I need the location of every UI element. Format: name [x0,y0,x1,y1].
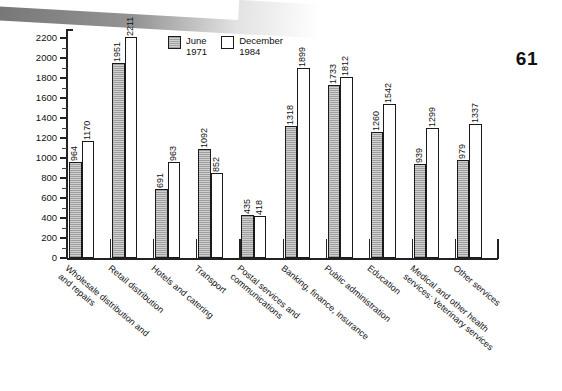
bar-june-1971: 435 [241,215,254,259]
bar-value-label: 963 [169,146,178,161]
bar-december-1984: 1170 [82,141,95,258]
x-axis-baseline [67,258,498,260]
bar-june-1971: 979 [457,160,470,258]
bar-december-1984: 1299 [426,128,439,258]
y-axis-tick [60,77,67,78]
y-axis-tick-label: 1400 [36,113,57,123]
bar-june-1971: 1318 [285,126,298,258]
bar-value-label: 418 [255,200,264,215]
y-axis-tick [60,37,67,38]
bar-december-1984: 963 [168,162,181,258]
y-axis-tick [60,137,67,138]
y-axis-tick-label: 1000 [36,153,57,163]
y-axis-tick-label: 800 [41,173,57,183]
x-axis-category-label: Banking, finance, insurance [279,263,370,342]
bar-june-1971: 1951 [112,63,125,258]
bar-value-label: 691 [156,173,165,188]
bar-june-1971: 1733 [328,85,341,258]
bar-value-label: 1170 [83,121,92,140]
y-axis-tick-label: 0 [52,253,57,263]
bar-value-label: 1542 [384,83,393,103]
bar-december-1984: 852 [211,173,224,258]
x-axis-group-separator [283,239,284,258]
x-axis-category-label: Transport [193,263,229,296]
x-axis-group-separator [412,239,413,258]
legend: June 1971December 1984 [168,35,283,57]
x-axis-group-separator [239,239,240,258]
x-axis-group-separator [326,239,327,258]
bar-value-label: 2211 [126,17,135,36]
bar-chart: 0200400600800100012001400160018002000220… [0,0,562,391]
y-axis-tick-label: 200 [41,233,57,243]
legend-label-june-1971: June 1971 [186,35,207,57]
y-axis-tick [60,237,67,238]
bar-june-1971: 964 [69,162,82,258]
y-axis-tick-label: 1800 [36,73,57,83]
legend-label-december-1984: December 1984 [239,35,283,57]
x-axis-group-separator [110,239,111,258]
legend-item-june-1971: June 1971 [168,35,207,57]
y-axis-tick [60,177,67,178]
bar-value-label: 939 [415,148,424,163]
x-axis-category-label: Education [365,263,402,297]
bar-value-label: 435 [243,198,252,213]
bar-value-label: 1812 [341,56,350,76]
bar-december-1984: 2211 [125,37,138,258]
bar-value-label: 1337 [471,103,480,123]
x-axis-group-separator [67,239,68,258]
bar-value-label: 852 [212,157,221,172]
y-axis-tick [60,97,67,98]
bar-june-1971: 939 [414,164,427,258]
x-axis-group-separator [369,239,370,258]
bar-value-label: 1092 [200,128,209,148]
bar-value-label: 1899 [298,47,307,67]
bar-value-label: 964 [70,146,79,161]
x-axis-group-separator [196,239,197,258]
y-axis-tick-label: 2000 [36,53,57,63]
x-axis-group-separator [153,239,154,258]
bar-june-1971: 691 [155,189,168,258]
x-axis-category-label: Medical and other health services: Veter… [401,263,502,352]
legend-swatch-december-1984 [221,36,234,49]
y-axis-tick-label: 400 [41,213,57,223]
bar-december-1984: 418 [254,216,267,258]
bar-value-label: 1318 [286,105,295,125]
bar-december-1984: 1337 [469,124,482,258]
bar-value-label: 979 [458,144,467,159]
bar-june-1971: 1260 [371,132,384,258]
bar-december-1984: 1812 [340,77,353,258]
bar-december-1984: 1899 [297,68,310,258]
bar-value-label: 1260 [372,111,381,131]
y-axis-tick [60,117,67,118]
y-axis-tick [60,157,67,158]
y-axis-tick-label: 2200 [36,33,57,43]
y-axis-tick-label: 600 [41,193,57,203]
bar-value-label: 1299 [428,107,437,127]
bar-value-label: 1733 [329,64,338,84]
y-axis-tick [60,257,67,258]
plot-area: 9641170195122116919631092852435418131818… [67,33,498,258]
y-axis-tick [60,217,67,218]
y-axis-tick-label: 1200 [36,133,57,143]
y-axis-tick [60,57,67,58]
y-axis-tick [60,197,67,198]
legend-swatch-june-1971 [168,36,181,49]
bar-value-label: 1951 [113,42,122,62]
x-axis-category-label: Wholesale distribution and and repairs [57,263,151,347]
bar-december-1984: 1542 [383,104,396,258]
y-axis-top-cap [66,29,73,31]
bar-june-1971: 1092 [198,149,211,258]
y-axis-tick-label: 1600 [36,93,57,103]
x-axis-group-separator [455,239,456,258]
legend-item-december-1984: December 1984 [221,35,283,57]
